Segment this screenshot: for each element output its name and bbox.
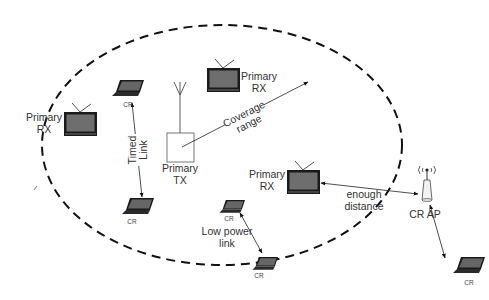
cr-label: CR bbox=[464, 279, 474, 286]
tv-icon bbox=[207, 59, 240, 92]
cr-label: CR bbox=[127, 218, 137, 225]
cr-device-mid: CR bbox=[122, 198, 154, 225]
cr-access-point: CR AP bbox=[409, 166, 441, 220]
distance-label-2: distance bbox=[344, 200, 383, 212]
timed-link-label-2: Link bbox=[137, 140, 149, 160]
primary-tx-label-2: TX bbox=[173, 174, 186, 186]
cr-label: CR bbox=[254, 272, 264, 279]
primary-rx-left-label-2: RX bbox=[37, 123, 52, 135]
laptop-icon bbox=[219, 200, 245, 213]
primary-rx-left: Primary RX bbox=[26, 103, 97, 136]
primary-rx-right-label-1: Primary bbox=[249, 168, 286, 180]
laptop-icon bbox=[122, 198, 154, 214]
cr-device-ap-client: CR bbox=[453, 257, 485, 286]
primary-rx-top-label-1: Primary bbox=[241, 70, 278, 82]
primary-rx-right-label-2: RX bbox=[260, 180, 275, 192]
tx-box bbox=[167, 133, 194, 162]
cr-device-bottom: CR bbox=[252, 257, 278, 279]
low-power-link-label-1: Low power bbox=[202, 225, 253, 237]
stray-mark bbox=[34, 186, 37, 190]
cr-device-small: CR bbox=[219, 200, 245, 222]
primary-rx-top-label-2: RX bbox=[252, 82, 267, 94]
distance-label-1: enough bbox=[346, 188, 381, 200]
diagram-canvas: Primary TX Coverage range Primary RX Pri… bbox=[0, 0, 489, 300]
laptop-icon bbox=[453, 257, 485, 273]
primary-rx-left-label-1: Primary bbox=[26, 111, 63, 123]
cr-ap-label: CR AP bbox=[409, 208, 441, 220]
primary-tx-label-1: Primary bbox=[162, 162, 199, 174]
cr-label: CR bbox=[224, 215, 234, 222]
cr-device-top: CR bbox=[112, 80, 144, 108]
primary-rx-right: Primary RX bbox=[249, 161, 320, 194]
tv-icon bbox=[64, 103, 97, 136]
tv-icon bbox=[287, 161, 320, 194]
primary-rx-top: Primary RX bbox=[207, 59, 278, 94]
primary-tx: Primary TX bbox=[162, 82, 199, 186]
laptop-icon bbox=[112, 80, 144, 96]
low-power-link-label-2: link bbox=[219, 237, 236, 249]
cr-label: CR bbox=[123, 101, 133, 108]
